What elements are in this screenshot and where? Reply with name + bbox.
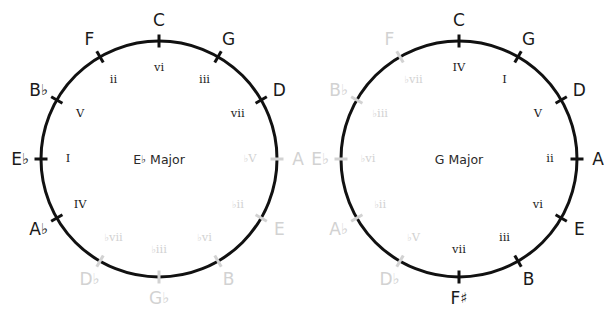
note-label: E <box>274 220 285 237</box>
note-label: E♭ <box>11 151 29 168</box>
note-label: B♭ <box>329 81 348 98</box>
scale-degree-label: ♭V <box>244 153 257 165</box>
scale-degree-label: vii <box>452 244 466 256</box>
circle-figure-right: CIVGIDVAiiEviBiiiF♯viiD♭♭VA♭♭iiE♭♭viB♭♭i… <box>300 0 600 315</box>
scale-degree-label: V <box>534 108 542 120</box>
scale-degree-label: iii <box>499 232 510 244</box>
note-label: D♭ <box>80 271 100 288</box>
note-label: A♭ <box>29 220 48 237</box>
scale-degree-label: IV <box>453 62 466 74</box>
scale-degree-label: ♭iii <box>151 244 167 256</box>
scale-degree-label: iii <box>199 74 210 86</box>
note-label: G <box>522 30 535 47</box>
note-label: F <box>85 30 95 47</box>
scale-degree-label: ♭vii <box>404 74 423 86</box>
scale-degree-label: IV <box>74 199 87 211</box>
note-label: C <box>153 12 165 29</box>
scale-degree-label: ♭vii <box>104 232 123 244</box>
note-label: A♭ <box>329 220 348 237</box>
note-label: D <box>273 81 286 98</box>
scale-degree-label: ♭ii <box>232 199 244 211</box>
scale-degree-label: ♭V <box>407 232 420 244</box>
note-label: E♭ <box>311 151 329 168</box>
scale-degree-label: ii <box>110 74 117 86</box>
scale-degree-label: I <box>502 74 507 86</box>
note-label: F♯ <box>451 290 468 307</box>
scale-degree-label: ♭ii <box>374 199 386 211</box>
note-label: B <box>523 271 535 288</box>
key-center-label: G Major <box>435 152 483 167</box>
scale-degree-label: vi <box>533 199 543 211</box>
scale-degree-label: V <box>76 108 84 120</box>
note-label: F <box>385 30 395 47</box>
scale-degree-label: ♭iii <box>372 108 388 120</box>
note-label: C <box>453 12 465 29</box>
scale-degree-label: vi <box>154 62 164 74</box>
note-label: G <box>222 30 235 47</box>
note-label: D♭ <box>380 271 400 288</box>
circle-figure-left: CviGiiiDviiA♭VE♭iiB♭viG♭♭iiiD♭♭viiA♭IVE♭… <box>0 0 300 315</box>
key-center-label: E♭ Major <box>133 152 185 167</box>
note-label: B <box>223 271 235 288</box>
scale-degree-label: I <box>66 153 71 165</box>
note-label: D <box>573 81 586 98</box>
scale-degree-label: ii <box>546 153 553 165</box>
scale-degree-label: ♭vi <box>197 232 212 244</box>
note-label: G♭ <box>149 290 169 307</box>
scale-degree-label: vii <box>231 108 245 120</box>
scale-degree-label: ♭vi <box>361 153 376 165</box>
note-label: E <box>574 220 585 237</box>
note-label: A <box>592 151 604 168</box>
note-label: B♭ <box>29 81 48 98</box>
